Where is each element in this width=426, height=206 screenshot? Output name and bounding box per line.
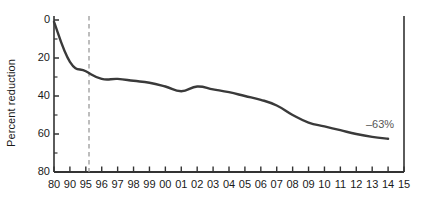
axis-lines — [54, 16, 404, 172]
chart-container: Percent reduction 020406080 809095969798… — [0, 0, 426, 206]
end-value-annotation: –63% — [366, 118, 394, 130]
plot-area — [0, 0, 426, 206]
series-line-percent-reduction — [54, 22, 388, 139]
